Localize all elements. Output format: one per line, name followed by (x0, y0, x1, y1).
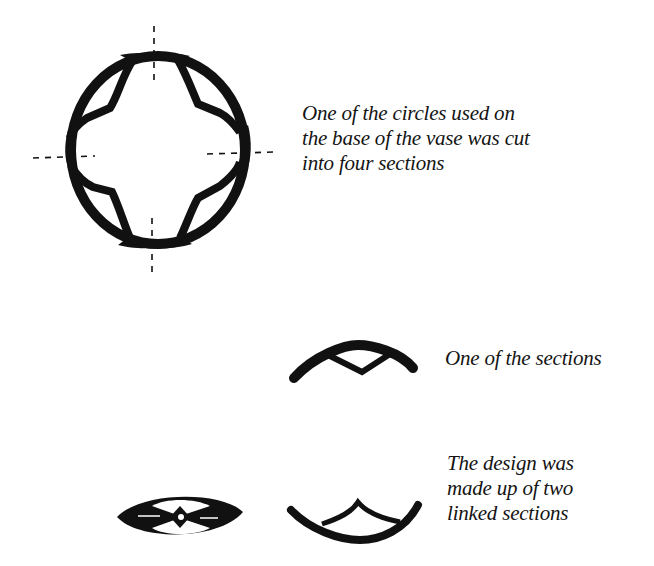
caption-circle: One of the circles used on the base of t… (302, 101, 530, 176)
single-section (294, 345, 413, 378)
inverted-section (291, 502, 418, 540)
caption-line: linked sections (447, 501, 574, 526)
circle-cut-into-four (33, 26, 275, 276)
caption-line: The design was (447, 451, 574, 476)
caption-line: One of the sections (445, 346, 602, 371)
caption-line: into four sections (302, 151, 530, 176)
caption-line: made up of two (447, 476, 574, 501)
caption-line: One of the circles used on (302, 101, 530, 126)
caption-section: One of the sections (445, 346, 602, 371)
caption-design: The design was made up of two linked sec… (447, 451, 574, 526)
linked-design (117, 497, 243, 535)
caption-line: the base of the vase was cut (302, 126, 530, 151)
